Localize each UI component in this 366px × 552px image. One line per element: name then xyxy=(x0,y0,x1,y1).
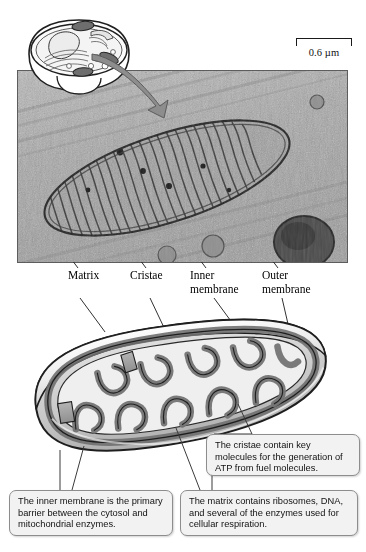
scale-bar-label: 0.6 µm xyxy=(296,47,352,58)
label-matrix: Matrix xyxy=(68,269,99,283)
cell-inset-drawing xyxy=(17,14,141,100)
cristae-callout: The cristae contain key molecules for th… xyxy=(206,434,360,476)
cell-overview-inset xyxy=(17,14,141,100)
label-inner-membrane: Inner membrane xyxy=(190,269,239,296)
scale-bar-line xyxy=(296,38,352,46)
inner-membrane-callout: The inner membrane is the primary barrie… xyxy=(9,490,173,536)
matrix-callout: The matrix contains ribosomes, DNA, and … xyxy=(180,490,358,536)
label-outer-membrane: Outer membrane xyxy=(262,269,311,296)
label-cristae: Cristae xyxy=(130,269,163,283)
figure-root: 0.6 µm xyxy=(0,0,366,552)
scale-bar: 0.6 µm xyxy=(296,38,352,58)
